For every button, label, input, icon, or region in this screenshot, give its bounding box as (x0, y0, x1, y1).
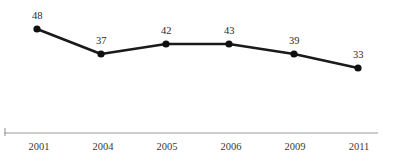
chart-plot-area: 48 37 42 43 39 33 2001 2004 2005 2006 20… (0, 0, 399, 165)
x-tick-label-2009: 2009 (285, 141, 306, 152)
data-point-marker[interactable] (33, 25, 40, 32)
data-label-2006: 43 (224, 25, 235, 36)
x-tick-label-2005: 2005 (157, 141, 178, 152)
line-chart: 48 37 42 43 39 33 2001 2004 2005 2006 20… (0, 0, 399, 165)
data-label-2011: 33 (353, 49, 364, 60)
data-label-2001: 48 (32, 10, 43, 21)
data-label-2005: 42 (161, 25, 172, 36)
x-axis-tick-labels: 2001 2004 2005 2006 2009 2011 (29, 141, 370, 152)
data-point-marker[interactable] (290, 50, 297, 57)
data-point-marker[interactable] (162, 40, 169, 47)
data-series-line (37, 29, 358, 68)
data-label-2004: 37 (96, 35, 107, 46)
x-tick-label-2001: 2001 (29, 141, 50, 152)
data-label-2009: 39 (289, 35, 300, 46)
data-value-labels: 48 37 42 43 39 33 (32, 10, 364, 60)
data-point-markers (33, 25, 361, 71)
data-point-marker[interactable] (225, 40, 232, 47)
data-point-marker[interactable] (97, 50, 104, 57)
x-tick-label-2011: 2011 (349, 141, 370, 152)
x-tick-label-2004: 2004 (93, 141, 115, 152)
x-tick-label-2006: 2006 (221, 141, 242, 152)
data-point-marker[interactable] (354, 64, 361, 71)
